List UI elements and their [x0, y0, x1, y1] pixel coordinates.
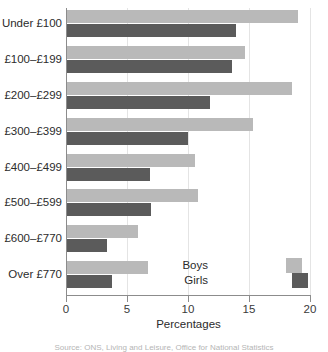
bar-girls[interactable] — [66, 24, 236, 37]
bar-girls[interactable] — [66, 203, 151, 216]
bar-boys[interactable] — [66, 82, 292, 95]
bar-boys[interactable] — [66, 225, 138, 238]
legend-swatch-girls — [292, 273, 308, 288]
bar-girls[interactable] — [66, 239, 107, 252]
x-axis-tick-label: 0 — [46, 303, 86, 315]
bar-boys[interactable] — [66, 118, 253, 131]
x-axis-title: Percentages — [66, 318, 311, 330]
x-axis-tick-label: 15 — [229, 303, 269, 315]
x-axis-tick — [188, 296, 189, 302]
legend-label-boys: Boys — [182, 259, 208, 271]
bar-group — [66, 46, 310, 74]
source-caption: Source: ONS, Living and Leisure, Office … — [0, 343, 328, 352]
category-label: £600–£770 — [0, 232, 62, 244]
x-axis-tick — [66, 296, 67, 302]
x-axis-tick — [310, 296, 311, 302]
bar-girls[interactable] — [66, 168, 150, 181]
x-axis-tick-label: 20 — [290, 303, 328, 315]
y-axis-line — [66, 8, 67, 295]
bar-group — [66, 189, 310, 217]
category-label: £500–£599 — [0, 196, 62, 208]
x-axis-tick — [127, 296, 128, 302]
bar-group — [66, 225, 310, 253]
bar-boys[interactable] — [66, 261, 148, 274]
bar-group — [66, 118, 310, 146]
category-label: £100–£199 — [0, 53, 62, 65]
x-axis-tick-label: 10 — [168, 303, 208, 315]
bar-girls[interactable] — [66, 96, 210, 109]
bar-group — [66, 82, 310, 110]
category-label: Under £100 — [0, 17, 62, 29]
bar-group — [66, 10, 310, 38]
bar-girls[interactable] — [66, 275, 112, 288]
bar-group — [66, 154, 310, 182]
bar-boys[interactable] — [66, 154, 195, 167]
category-label: £300–£399 — [0, 125, 62, 137]
bar-boys[interactable] — [66, 189, 198, 202]
bar-girls[interactable] — [66, 60, 232, 73]
plot-area — [66, 8, 310, 295]
bar-girls[interactable] — [66, 132, 188, 145]
bar-boys[interactable] — [66, 10, 298, 23]
category-label: £400–£499 — [0, 161, 62, 173]
legend-label-girls: Girls — [184, 274, 208, 286]
x-axis-tick — [249, 296, 250, 302]
gridline — [310, 8, 311, 295]
x-axis-tick-label: 5 — [107, 303, 147, 315]
bar-boys[interactable] — [66, 46, 245, 59]
legend-swatch-boys — [286, 258, 302, 273]
category-label: £200–£299 — [0, 89, 62, 101]
category-label: Over £770 — [0, 268, 62, 280]
